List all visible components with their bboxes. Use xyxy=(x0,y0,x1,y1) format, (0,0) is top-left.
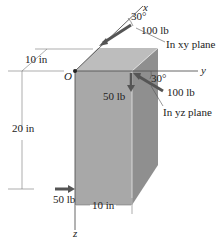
down-force-label: 50 lb xyxy=(103,90,126,102)
bottom-force-label: 50 lb xyxy=(53,193,76,205)
yz-plane-label: In yz plane xyxy=(163,106,212,118)
xy-force-arrow xyxy=(103,25,131,43)
yz-force-label: 100 lb xyxy=(167,86,195,98)
origin-label: O xyxy=(64,70,72,82)
height-dimension-label: 20 in xyxy=(12,122,35,134)
xy-plane-label: In xy plane xyxy=(166,38,216,50)
depth-dimension-label: 10 in xyxy=(25,53,48,65)
xy-force-label: 100 lb xyxy=(141,24,169,36)
origin-point xyxy=(73,69,77,73)
box-diagram: x y z O 30° 100 lb In xy plane 50 lb 30°… xyxy=(0,0,220,241)
width-dimension-label: 10 in xyxy=(92,199,115,211)
z-axis-label: z xyxy=(72,227,78,239)
y-axis-label: y xyxy=(200,64,206,76)
yz-angle-label: 30° xyxy=(151,72,166,84)
arrowhead-icon xyxy=(68,185,75,193)
xy-angle-label: 30° xyxy=(131,10,146,22)
